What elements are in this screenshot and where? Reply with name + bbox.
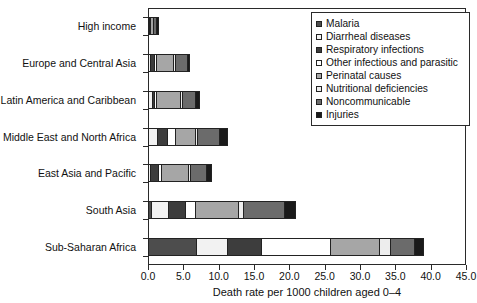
- legend-label: Noncommunicable: [326, 95, 410, 108]
- bar-segment: [243, 201, 285, 219]
- bar-segment: [175, 128, 195, 146]
- legend-item[interactable]: Nutritional deficiencies: [316, 82, 464, 95]
- legend-label: Respiratory infections: [326, 43, 424, 56]
- x-tick-label: 20.0: [279, 270, 299, 282]
- bar-segment: [185, 201, 194, 219]
- bar-segment: [284, 201, 296, 219]
- y-axis-label: East Asia and Pacific: [38, 168, 136, 179]
- bar-segment: [379, 238, 390, 256]
- y-axis-label: Middle East and North Africa: [3, 131, 136, 142]
- y-axis-label: Europe and Central Asia: [22, 58, 136, 69]
- legend-label: Perinatal causes: [326, 69, 401, 82]
- bar-row: [148, 164, 212, 182]
- bar-segment: [219, 128, 227, 146]
- bar-segment: [196, 238, 227, 256]
- legend-swatch-icon: [316, 21, 322, 27]
- legend-label: Nutritional deficiencies: [326, 82, 428, 95]
- legend-swatch-icon: [316, 47, 322, 53]
- bar-segment: [190, 164, 206, 182]
- x-tick-label: 5.0: [176, 270, 191, 282]
- bar-segment: [156, 91, 180, 109]
- legend-swatch-icon: [316, 60, 322, 66]
- y-axis-label: Sub-Saharan Africa: [45, 241, 136, 252]
- bar-segment: [261, 238, 330, 256]
- bar-row: [148, 17, 159, 35]
- x-tick-label: 45.0: [456, 270, 476, 282]
- bar-segment: [148, 128, 157, 146]
- bar-segment: [156, 54, 173, 72]
- bar-row: [148, 128, 228, 146]
- bar-segment: [187, 54, 191, 72]
- bar-segment: [150, 164, 158, 182]
- legend-item[interactable]: Diarrheal diseases: [316, 30, 464, 43]
- x-tick-label: 35.0: [385, 270, 405, 282]
- bar-segment: [175, 54, 187, 72]
- y-axis-category-labels: High incomeEurope and Central AsiaLatin …: [0, 8, 144, 265]
- bar-segment: [390, 238, 415, 256]
- legend-label: Other infectious and parasitic: [326, 56, 458, 69]
- bar-row: [148, 201, 296, 219]
- legend-swatch-icon: [316, 99, 322, 105]
- bar-segment: [161, 164, 189, 182]
- legend-label: Diarrheal diseases: [326, 30, 410, 43]
- legend-swatch-icon: [316, 73, 322, 79]
- stacked-bar-chart: High incomeEurope and Central AsiaLatin …: [0, 0, 477, 303]
- x-tick-label: 10.0: [208, 270, 228, 282]
- y-axis-label: Latin America and Caribbean: [1, 94, 136, 105]
- y-axis-label: High income: [78, 21, 136, 32]
- legend-swatch-icon: [316, 86, 322, 92]
- bar-segment: [168, 201, 185, 219]
- x-tick-label: 40.0: [420, 270, 440, 282]
- legend-item[interactable]: Noncommunicable: [316, 95, 464, 108]
- chart-legend: MalariaDiarrheal diseasesRespiratory inf…: [311, 12, 470, 126]
- bar-segment: [197, 128, 219, 146]
- bar-segment: [227, 238, 261, 256]
- legend-label: Injuries: [326, 108, 359, 121]
- y-axis-label: South Asia: [86, 204, 136, 215]
- bar-segment: [182, 91, 195, 109]
- bar-segment: [206, 164, 212, 182]
- x-tick-label: 0.0: [141, 270, 156, 282]
- bar-segment: [157, 128, 167, 146]
- legend-item[interactable]: Respiratory infections: [316, 43, 464, 56]
- bar-segment: [148, 238, 196, 256]
- bar-segment: [195, 91, 199, 109]
- bar-segment: [414, 238, 423, 256]
- legend-item[interactable]: Injuries: [316, 108, 464, 121]
- x-axis-tick-labels: 0.05.010.015.020.025.030.035.040.045.0: [0, 270, 477, 284]
- bar-segment: [151, 201, 169, 219]
- x-tick-label: 30.0: [350, 270, 370, 282]
- legend-swatch-icon: [316, 34, 322, 40]
- bar-segment: [195, 201, 239, 219]
- bar-segment: [156, 17, 159, 35]
- bar-row: [148, 54, 190, 72]
- bar-row: [148, 238, 424, 256]
- bar-segment: [167, 128, 175, 146]
- bar-segment: [330, 238, 379, 256]
- legend-item[interactable]: Perinatal causes: [316, 69, 464, 82]
- x-axis-title: Death rate per 1000 children aged 0–4: [148, 286, 466, 298]
- x-tick-label: 15.0: [244, 270, 264, 282]
- bar-row: [148, 91, 200, 109]
- x-tick-label: 25.0: [314, 270, 334, 282]
- legend-label: Malaria: [326, 17, 359, 30]
- legend-item[interactable]: Other infectious and parasitic: [316, 56, 464, 69]
- legend-swatch-icon: [316, 112, 322, 118]
- legend-item[interactable]: Malaria: [316, 17, 464, 30]
